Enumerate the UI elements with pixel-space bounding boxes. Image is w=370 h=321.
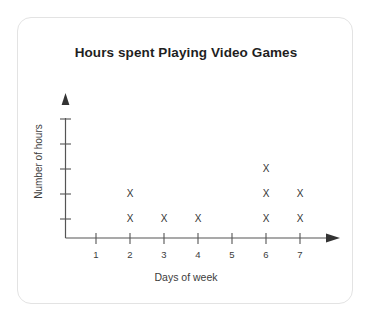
x-tick-label-2: 2 bbox=[123, 249, 137, 260]
data-marker: X bbox=[124, 214, 136, 224]
data-marker: X bbox=[124, 189, 136, 199]
x-tick-label-4: 4 bbox=[191, 249, 205, 260]
data-marker: X bbox=[192, 214, 204, 224]
axes-svg bbox=[18, 18, 354, 305]
data-marker: X bbox=[158, 214, 170, 224]
x-tick-label-7: 7 bbox=[293, 249, 307, 260]
x-tick-label-6: 6 bbox=[259, 249, 273, 260]
x-tick-label-3: 3 bbox=[157, 249, 171, 260]
data-marker: X bbox=[260, 164, 272, 174]
chart-card: Hours spent Playing Video Games Number o… bbox=[17, 17, 353, 304]
data-marker: X bbox=[294, 189, 306, 199]
x-tick-label-5: 5 bbox=[225, 249, 239, 260]
page-root: Hours spent Playing Video Games Number o… bbox=[0, 0, 370, 321]
data-marker: X bbox=[260, 189, 272, 199]
data-marker: X bbox=[260, 214, 272, 224]
data-marker: X bbox=[294, 214, 306, 224]
y-axis-arrow-icon bbox=[62, 93, 70, 105]
plot-area: Number of hours Days of week bbox=[18, 18, 354, 305]
x-tick-label-1: 1 bbox=[89, 249, 103, 260]
x-axis-arrow-icon bbox=[326, 233, 340, 242]
